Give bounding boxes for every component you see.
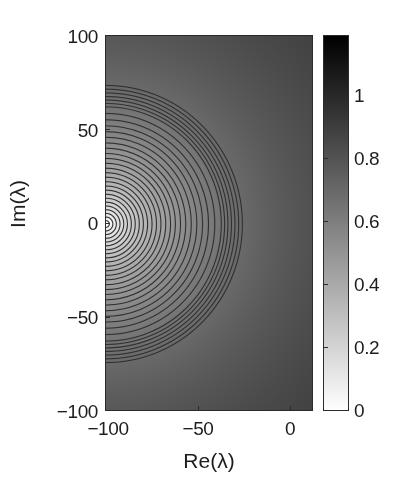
colorbar-tick-label-06: 0.6 bbox=[354, 212, 379, 231]
y-axis-label-container: Im(λ) bbox=[7, 139, 35, 269]
pseudospectrum-figure: 100 50 0 −50 −100 −100 −50 0 Re(λ) Im(λ)… bbox=[0, 0, 395, 495]
x-tick-mark-n100 bbox=[105, 406, 106, 411]
colorbar-tick-label-1: 1 bbox=[354, 86, 364, 105]
colorbar-tick-mark-1 bbox=[323, 95, 328, 96]
y-tick-mark-50 bbox=[105, 129, 110, 130]
contour-heatmap-canvas bbox=[106, 36, 313, 411]
colorbar-tick-mark-02 bbox=[323, 347, 328, 348]
colorbar bbox=[323, 35, 349, 411]
x-tick-label-0: 0 bbox=[250, 419, 330, 438]
colorbar-tick-label-0: 0 bbox=[354, 401, 364, 420]
y-tick-label-0: 0 bbox=[40, 214, 98, 233]
x-tick-mark-0 bbox=[290, 406, 291, 411]
colorbar-tick-label-02: 0.2 bbox=[354, 338, 379, 357]
y-tick-label-50: 50 bbox=[40, 121, 98, 140]
plot-area bbox=[105, 35, 313, 411]
y-tick-mark-n50 bbox=[105, 317, 110, 318]
colorbar-tick-mark-06 bbox=[323, 221, 328, 222]
y-axis-label: Im(λ) bbox=[7, 139, 28, 269]
x-axis-label: Re(λ) bbox=[108, 450, 310, 471]
colorbar-tick-label-04: 0.4 bbox=[354, 275, 379, 294]
x-axis-tick-labels: −100 −50 0 bbox=[0, 419, 395, 447]
y-tick-mark-0 bbox=[105, 223, 110, 224]
y-tick-mark-100 bbox=[105, 35, 110, 36]
x-tick-mark-n50 bbox=[198, 406, 199, 411]
colorbar-tick-mark-0 bbox=[323, 410, 328, 411]
x-tick-label-n50: −50 bbox=[158, 419, 238, 438]
x-tick-label-n100: −100 bbox=[68, 419, 148, 438]
colorbar-tick-mark-04 bbox=[323, 284, 328, 285]
y-tick-label-100: 100 bbox=[40, 27, 98, 46]
y-tick-label-n50: −50 bbox=[40, 308, 98, 327]
colorbar-tick-label-08: 0.8 bbox=[354, 149, 379, 168]
colorbar-gradient bbox=[324, 36, 348, 410]
colorbar-tick-mark-08 bbox=[323, 158, 328, 159]
